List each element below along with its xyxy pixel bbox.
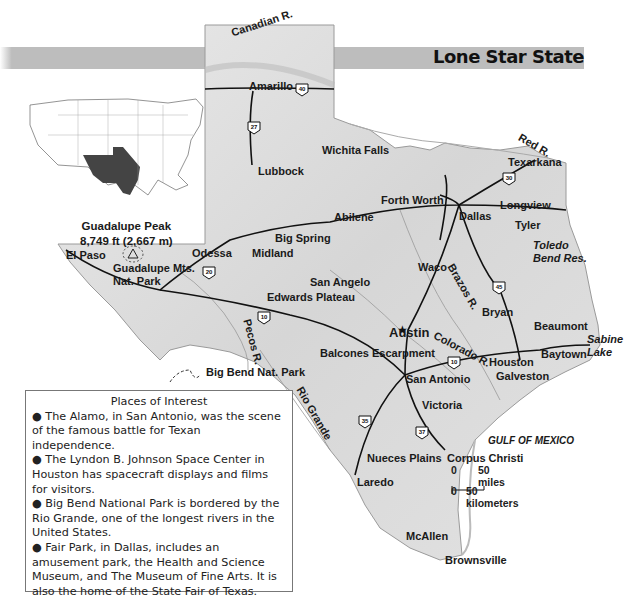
place-item: ● Fair Park, in Dallas, includes an amus…	[32, 541, 286, 599]
svg-text:40: 40	[299, 86, 306, 92]
svg-text:30: 30	[506, 175, 513, 181]
lake-toledo: Toledo	[533, 240, 569, 251]
park-guadalupe-2: Nat. Park	[113, 276, 161, 287]
place-item: ● The Lyndon B. Johnson Space Center in …	[32, 453, 286, 497]
city-label: Big Spring	[275, 233, 331, 244]
place-item: ● The Alamo, in San Antonio, was the sce…	[32, 410, 286, 454]
city-label: Lubbock	[258, 166, 304, 177]
place-item: ● Big Bend National Park is bordered by …	[32, 497, 286, 541]
city-label: Houston	[489, 357, 534, 368]
city-label: Victoria	[422, 400, 462, 411]
city-label: Texarkana	[508, 157, 562, 168]
city-label: Balcones Escarpment	[320, 348, 435, 359]
svg-text:20: 20	[206, 269, 213, 275]
guadalupe-peak-callout: Guadalupe Peak 8,749 ft (2,667 m)	[80, 219, 173, 249]
city-label: San Antonio	[406, 374, 470, 385]
city-label: Wichita Falls	[322, 145, 389, 156]
city-label: Odessa	[192, 248, 232, 259]
city-label: Baytown	[541, 349, 587, 360]
places-of-interest-box: Places of Interest ● The Alamo, in San A…	[25, 390, 293, 592]
lake-sabine: Sabine	[587, 334, 623, 345]
city-label: Laredo	[357, 477, 394, 488]
svg-text:37: 37	[419, 429, 426, 435]
svg-text:45: 45	[496, 284, 503, 290]
city-label: Nueces Plains	[367, 453, 442, 464]
city-label: Beaumont	[534, 321, 588, 332]
city-label: Bryan	[482, 307, 513, 318]
park-big-bend: Big Bend Nat. Park	[206, 367, 305, 378]
lake-sabine-2: Lake	[587, 347, 612, 358]
park-guadalupe: Guadalupe Mts.	[113, 263, 195, 274]
city-label: Galveston	[496, 371, 549, 382]
svg-text:10: 10	[261, 314, 268, 320]
city-label: Midland	[252, 248, 294, 259]
lake-toledo-2: Bend Res.	[533, 253, 587, 264]
city-label: Waco	[418, 262, 447, 273]
us-inset-map	[30, 99, 203, 195]
city-label: El Paso	[66, 250, 106, 261]
city-label: Amarillo	[249, 81, 293, 92]
city-label: Forth Worth	[381, 195, 444, 206]
city-label: Tyler	[515, 220, 540, 231]
city-label: Brownsville	[445, 555, 507, 566]
svg-text:35: 35	[362, 418, 369, 424]
city-label: Abilene	[334, 212, 374, 223]
peak-elevation: 8,749 ft (2,667 m)	[80, 234, 173, 249]
gulf-of-mexico: GULF OF MEXICO	[488, 436, 574, 446]
city-label: Dallas	[459, 211, 491, 222]
city-label: Longview	[500, 200, 551, 211]
peak-name: Guadalupe Peak	[80, 219, 173, 234]
city-label: Corpus Christi	[447, 453, 523, 464]
capital-austin: Austin	[389, 326, 429, 339]
svg-text:10: 10	[451, 359, 458, 365]
places-heading: Places of Interest	[32, 395, 286, 410]
city-label: San Angelo	[310, 277, 370, 288]
city-label: Edwards Plateau	[267, 292, 355, 303]
svg-text:27: 27	[251, 124, 258, 130]
city-label: McAllen	[406, 531, 448, 542]
